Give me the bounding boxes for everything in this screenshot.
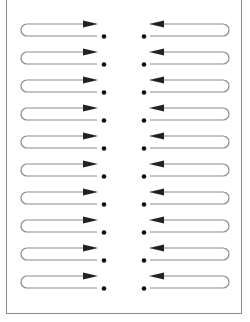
diagram-canvas [0, 0, 250, 322]
left-dot [102, 230, 107, 235]
left-arrowhead-icon [149, 161, 164, 168]
right-dot [142, 202, 147, 207]
right-arrowhead-icon [83, 105, 98, 112]
left-dot [102, 90, 107, 95]
right-arrowhead-icon [83, 49, 98, 56]
right-arrowhead-icon [83, 217, 98, 224]
right-dot [142, 90, 147, 95]
right-arrowhead-icon [83, 189, 98, 196]
left-dot [102, 146, 107, 151]
left-arrowhead-icon [149, 77, 164, 84]
right-arrowhead-icon [83, 21, 98, 28]
right-arrowhead-icon [83, 273, 98, 280]
left-dot [102, 258, 107, 263]
right-dot [142, 286, 147, 291]
right-arrowhead-icon [83, 133, 98, 140]
left-arrowhead-icon [149, 217, 164, 224]
left-dot [102, 62, 107, 67]
left-arrowhead-icon [149, 245, 164, 252]
right-dot [142, 118, 147, 123]
right-arrowhead-icon [83, 77, 98, 84]
left-dot [102, 34, 107, 39]
left-arrowhead-icon [149, 133, 164, 140]
right-dot [142, 258, 147, 263]
right-dot [142, 62, 147, 67]
left-arrowhead-icon [149, 105, 164, 112]
left-arrowhead-icon [149, 189, 164, 196]
left-dot [102, 118, 107, 123]
left-dot [102, 286, 107, 291]
right-dot [142, 230, 147, 235]
right-dot [142, 146, 147, 151]
right-arrowhead-icon [83, 161, 98, 168]
left-dot [102, 174, 107, 179]
left-dot [102, 202, 107, 207]
right-dot [142, 34, 147, 39]
right-dot [142, 174, 147, 179]
right-arrowhead-icon [83, 245, 98, 252]
left-arrowhead-icon [149, 273, 164, 280]
left-arrowhead-icon [149, 21, 164, 28]
left-arrowhead-icon [149, 49, 164, 56]
